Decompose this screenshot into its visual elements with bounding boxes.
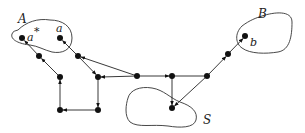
nodes [19,33,248,113]
region-s-label: S [203,113,211,127]
edge-n9-n10 [207,57,226,77]
edge-n2-a [63,41,79,57]
graph-diagram: A B S a * a b [0,0,305,133]
edge-n7-n4 [101,76,137,77]
node-n5 [57,107,63,113]
node-b [242,33,248,39]
edge-n7-n2 [81,57,137,76]
edge-n10-b [228,39,243,55]
edge-n9-s [175,76,208,106]
node-a [57,35,63,41]
node-n2 [75,53,81,59]
node-b-label: b [250,36,257,49]
node-a-star-superscript: * [34,25,40,38]
edge-n3-n1 [42,59,61,78]
region-a-label: A [17,12,27,26]
node-n7 [134,73,140,79]
region-s-outline [126,87,196,127]
node-a-star-label: a [27,31,34,44]
node-a-star [19,35,25,41]
node-n8 [169,73,175,79]
node-n10 [225,51,231,57]
node-a-label: a [56,22,63,35]
region-b-label: B [257,7,267,21]
node-n1 [36,53,42,59]
node-n6 [95,107,101,113]
edges [25,39,244,111]
node-n9 [204,73,210,79]
node-s [169,105,175,111]
node-n3 [57,74,63,80]
node-n4 [95,74,101,80]
